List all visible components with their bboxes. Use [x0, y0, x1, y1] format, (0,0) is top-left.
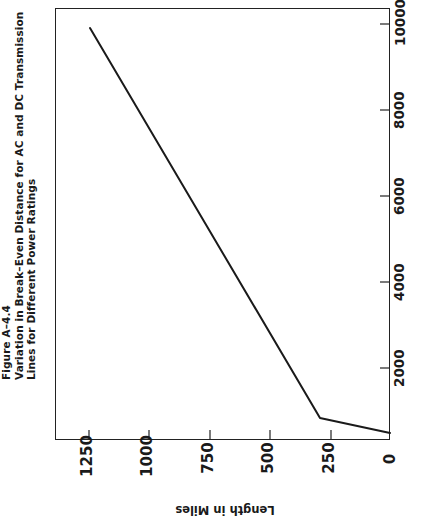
bottom-tick-label-1250: 1250 — [80, 433, 98, 479]
right-tick-label-2000: 2000 — [393, 351, 409, 387]
caption-line-2: Variation in Break–Even Distance for AC … — [13, 0, 26, 380]
plot-frame — [55, 8, 390, 440]
caption-line-3: Lines for Different Power Ratings — [25, 0, 38, 380]
right-tick-label-10000: 10000 — [394, 2, 410, 46]
bottom-tick-label-500: 500 — [261, 439, 279, 477]
right-tick-label-6000: 6000 — [393, 179, 409, 215]
bottom-tick-label-250: 250 — [322, 439, 340, 477]
figure-page: Figure A–4.4 Variation in Break–Even Dis… — [0, 0, 425, 528]
bottom-tick-label-0: 0 — [383, 447, 397, 471]
right-tick-label-8000: 8000 — [393, 93, 409, 129]
axis-title-length-in-miles: Length in Miles — [155, 503, 295, 517]
figure-caption: Figure A–4.4 Variation in Break–Even Dis… — [0, 0, 44, 528]
bottom-tick-label-750: 750 — [201, 439, 219, 477]
bottom-tick-label-1000: 1000 — [140, 433, 158, 479]
right-tick-label-4000: 4000 — [393, 265, 409, 301]
caption-line-1: Figure A–4.4 — [0, 0, 13, 380]
